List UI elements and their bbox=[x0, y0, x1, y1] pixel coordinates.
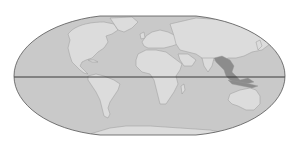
world-map bbox=[0, 0, 305, 142]
